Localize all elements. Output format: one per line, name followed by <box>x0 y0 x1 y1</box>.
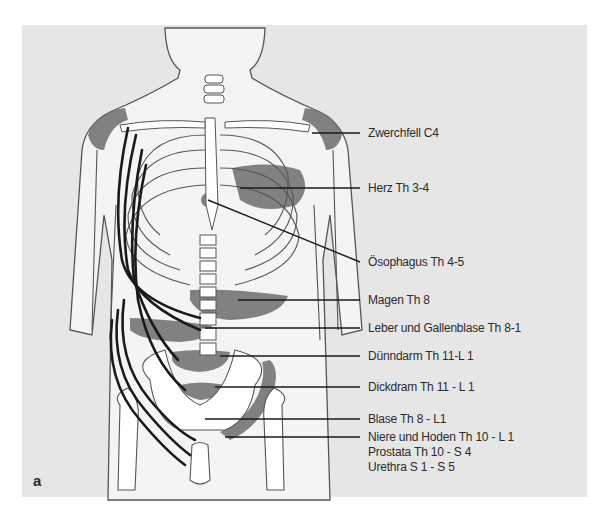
label-kidney-testes: Niere und Hoden Th 10 - L 1 <box>368 430 514 444</box>
label-diaphragm: Zwerchfell C4 <box>368 126 439 140</box>
panel-letter: a <box>33 472 41 489</box>
label-stomach: Magen Th 8 <box>368 293 430 307</box>
label-liver-gallbladder: Leber und Gallenblase Th 8-1 <box>368 321 521 335</box>
label-small-intestine: Dünndarm Th 11-L 1 <box>368 349 474 363</box>
label-bladder: Blase Th 8 - L1 <box>368 412 446 426</box>
label-esophagus: Ösophagus Th 4-5 <box>368 255 464 269</box>
label-heart: Herz Th 3-4 <box>368 181 429 195</box>
head-zone-body-diagram <box>0 0 609 516</box>
label-urethra: Urethra S 1 - S 5 <box>368 460 455 474</box>
label-colon: Dickdram Th 11 - L 1 <box>368 380 475 394</box>
label-prostate: Prostata Th 10 - S 4 <box>368 445 471 459</box>
